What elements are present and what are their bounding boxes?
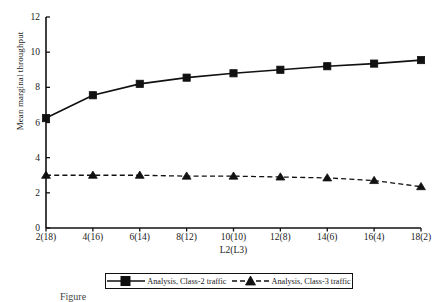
x-axis-tick-label: 6(14) xyxy=(116,231,164,243)
x-axis-tick-label: 8(12) xyxy=(163,231,211,243)
series-marker-square xyxy=(89,92,96,99)
x-axis-tick-label: 18(2) xyxy=(397,231,441,243)
legend-label-class-3: Analysis, Class-3 traffic xyxy=(270,277,351,286)
series-marker-square xyxy=(136,80,143,87)
data-series xyxy=(42,56,426,189)
legend-label-class-2: Analysis, Class-2 traffic xyxy=(145,277,226,286)
series-marker-square xyxy=(371,60,378,67)
x-axis-tick-label: 12(8) xyxy=(256,231,304,243)
series-marker-square xyxy=(417,56,424,63)
legend-swatch-triangle-icon xyxy=(232,274,270,288)
x-axis-tick-labels: 2(18)4(16)6(14)8(12)10(10)12(8)14(6)16(4… xyxy=(46,231,421,245)
series-marker-triangle xyxy=(323,174,332,181)
x-axis-tick-label: 10(10) xyxy=(210,231,258,243)
chart-legend: Analysis, Class-2 traffic Analysis, Clas… xyxy=(105,273,353,289)
x-axis-tick-label: 2(18) xyxy=(22,231,70,243)
legend-swatch-square-icon xyxy=(107,274,145,288)
figure-caption: Figure xyxy=(60,291,86,302)
series-marker-triangle xyxy=(370,176,379,183)
series-marker-square xyxy=(277,66,284,73)
x-axis-tick-label: 14(6) xyxy=(303,231,351,243)
series-marker-square xyxy=(183,74,190,81)
axes xyxy=(46,17,421,232)
x-axis-tick-label: 16(4) xyxy=(350,231,398,243)
series-line-1 xyxy=(46,60,421,118)
x-axis-tick-label: 4(16) xyxy=(69,231,117,243)
series-marker-square xyxy=(324,63,331,70)
x-axis-label: L2(L3) xyxy=(46,245,421,255)
series-marker-square xyxy=(42,115,49,122)
legend-entry-class-2: Analysis, Class-2 traffic xyxy=(107,274,226,288)
series-marker-square xyxy=(230,70,237,77)
legend-entry-class-3: Analysis, Class-3 traffic xyxy=(232,274,351,288)
